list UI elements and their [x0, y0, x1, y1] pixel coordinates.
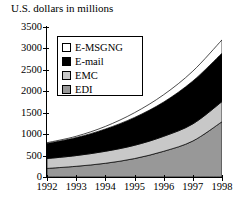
chart-legend: E-MSGNGE-mailEMCEDI: [57, 36, 143, 96]
y-tick-label: 1000: [2, 129, 42, 139]
y-tick-label: 2500: [2, 65, 42, 75]
y-tick-label: 3000: [2, 43, 42, 53]
legend-item-edi[interactable]: EDI: [62, 82, 142, 96]
legend-item-e-msgng[interactable]: E-MSGNG: [62, 40, 142, 54]
legend-item-e-mail[interactable]: E-mail: [62, 54, 142, 68]
legend-item-emc[interactable]: EMC: [62, 68, 142, 82]
legend-label: EMC: [75, 70, 98, 81]
y-tick-label: 500: [2, 151, 42, 161]
legend-label: E-MSGNG: [75, 42, 123, 53]
legend-swatch-icon: [62, 43, 71, 52]
legend-swatch-icon: [62, 71, 71, 80]
legend-label: EDI: [75, 84, 93, 95]
legend-swatch-icon: [62, 85, 71, 94]
legend-swatch-icon: [62, 57, 71, 66]
x-tick-label: 1998: [205, 181, 239, 193]
chart-container: U.S. dollars in millions 050010001500200…: [0, 0, 244, 200]
y-tick-label: 1500: [2, 108, 42, 118]
y-tick-label: 3500: [2, 22, 42, 32]
legend-label: E-mail: [75, 56, 104, 67]
y-axis-labels: 0500100015002000250030003500: [0, 0, 42, 200]
x-axis-labels: 1992199319941995199619971998: [0, 181, 244, 197]
y-tick-label: 2000: [2, 86, 42, 96]
